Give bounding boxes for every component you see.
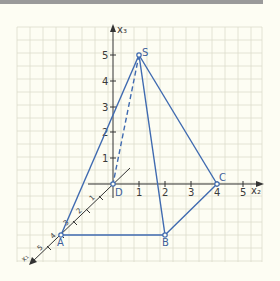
x3-tick-4: 4 (102, 76, 108, 87)
x3-tick-5: 5 (102, 50, 108, 61)
point-S (137, 53, 141, 57)
x3-arrow-icon (110, 24, 116, 32)
x2-tick-3: 3 (188, 187, 194, 198)
label-A: A (57, 237, 64, 248)
x2-tick-2: 2 (162, 187, 168, 198)
x3-tick-1: 1 (102, 153, 108, 164)
edge-SA (61, 55, 139, 235)
x2-tick-1: 1 (136, 187, 142, 198)
pyramid-diagram: 1 2 3 4 5 x₃ 1 2 3 4 5 x₂ 1 2 3 4 5 x₁ A… (0, 0, 280, 281)
x3-axis-label: x₃ (117, 24, 127, 35)
edge-SC (139, 55, 217, 184)
label-S: S (142, 47, 148, 58)
label-D: D (115, 187, 123, 198)
x3-tick-3: 3 (102, 102, 108, 113)
edge-SD (113, 55, 139, 184)
label-C: C (219, 172, 226, 183)
point-D (111, 182, 115, 186)
x1-axis-label: x₁ (20, 253, 31, 264)
x2-axis-label: x₂ (251, 185, 261, 196)
edge-SB (139, 55, 165, 235)
x2-tick-5: 5 (240, 187, 246, 198)
label-B: B (162, 237, 169, 248)
pyramid-edges (61, 55, 217, 235)
x2-tick-4: 4 (214, 187, 220, 198)
